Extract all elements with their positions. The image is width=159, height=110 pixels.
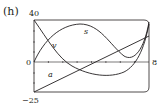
curve-label-v: v (52, 41, 57, 50)
y-max-label: 40 (29, 9, 39, 18)
origin-label: 0 (26, 58, 31, 67)
chart-plot (0, 0, 159, 110)
curve-label-a: a (48, 70, 53, 79)
y-min-label: −25 (22, 96, 39, 105)
plot-frame (34, 20, 149, 92)
panel-label: (h) (3, 7, 19, 16)
curve-label-s: s (84, 27, 88, 36)
x-max-label: 8 (152, 58, 157, 67)
